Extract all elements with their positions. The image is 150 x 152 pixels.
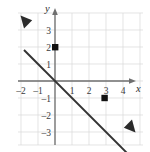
grid-lines [18, 13, 143, 145]
y-axis-arrow [52, 8, 58, 15]
y-tick-label-neg3: –3 [36, 128, 51, 138]
y-tick-label-3: 3 [41, 26, 51, 36]
x-tick-label-1: 1 [66, 86, 78, 96]
x-tick-label-3: 3 [100, 86, 112, 96]
y-tick-label-neg2: –2 [36, 111, 51, 121]
x-tick-label-2: 2 [83, 86, 95, 96]
x-axis-label: x [136, 83, 141, 94]
coordinate-plane-svg [0, 0, 150, 152]
x-tick-label-4: 4 [117, 86, 129, 96]
x-tick-label-neg2: –2 [14, 86, 28, 96]
y-tick-label-1: 1 [41, 60, 51, 70]
x-axis-arrow [129, 78, 136, 84]
axes [18, 11, 133, 145]
y-axis-label: y [45, 3, 50, 14]
graph-figure: –2 –1 1 2 3 4 3 2 1 –1 –2 –3 y x [0, 0, 150, 152]
line-arrow-upper-left [21, 16, 33, 29]
y-tick-label-neg1: –1 [36, 94, 51, 104]
point-0-2 [52, 44, 58, 50]
line-arrow-lower-right [124, 120, 136, 133]
y-tick-label-2: 2 [41, 43, 51, 53]
